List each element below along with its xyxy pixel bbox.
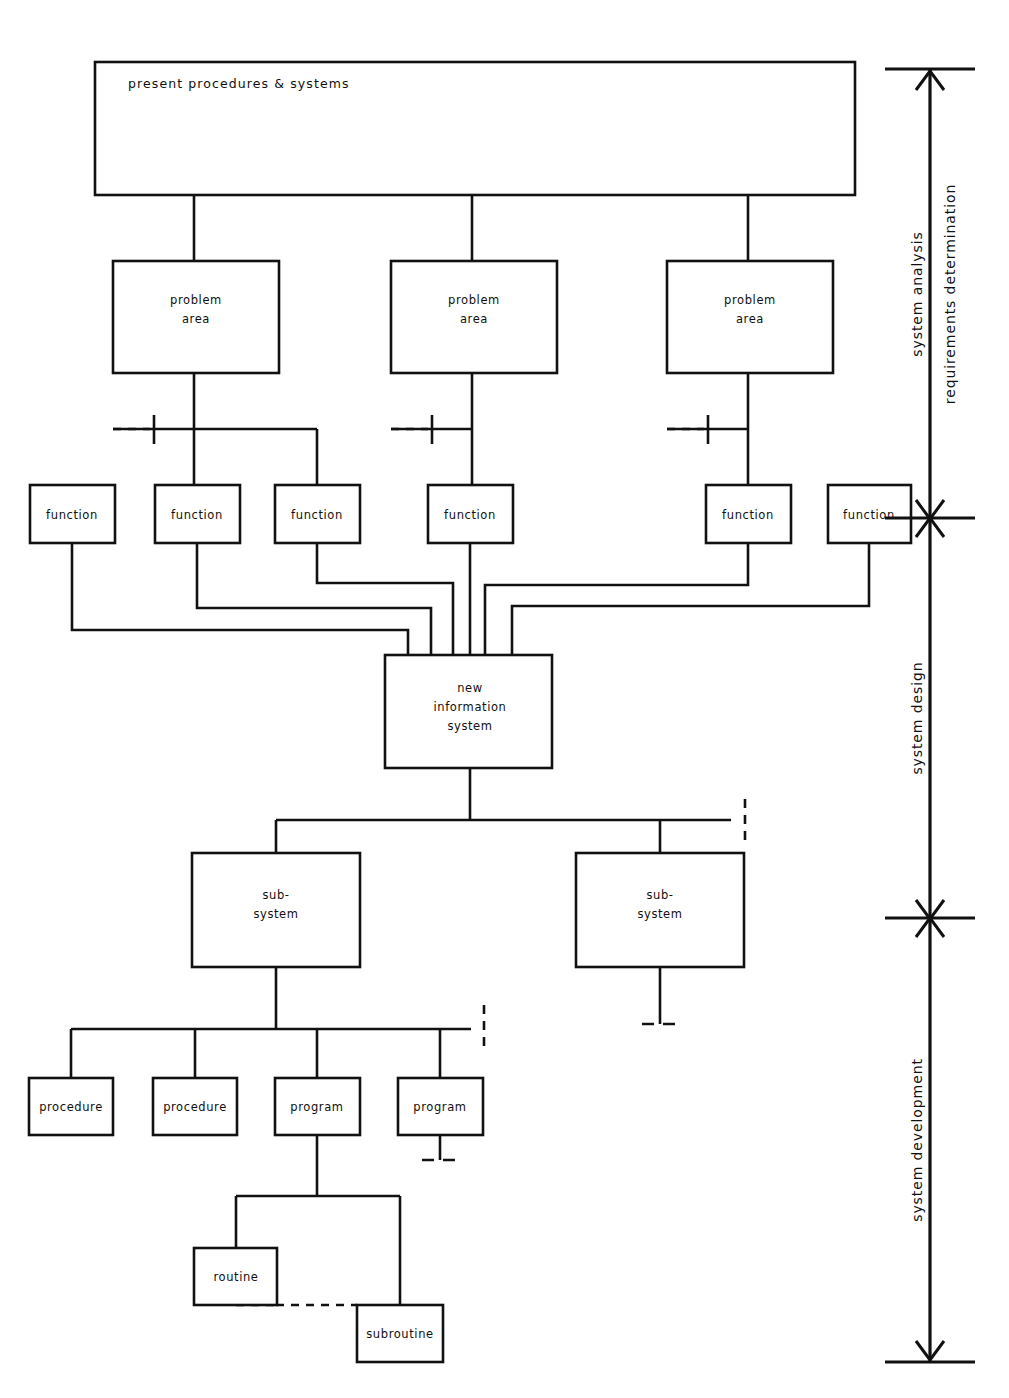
- label-sub-system-1-line1: sub-: [262, 888, 289, 902]
- phase-label-system-design: system design: [909, 661, 925, 774]
- label-problem-area-3-line2: area: [736, 312, 764, 326]
- label-function-3: function: [291, 508, 343, 522]
- phase-label-requirements-determination: requirements determination: [942, 184, 958, 404]
- label-problem-area-2-line2: area: [460, 312, 488, 326]
- label-routine-1: routine: [213, 1270, 258, 1284]
- label-program-1: program: [290, 1100, 343, 1114]
- connector-function-3-to-nis: [317, 543, 453, 655]
- connector-function-5-to-nis: [485, 543, 748, 655]
- label-sub-system-2-line2: system: [637, 907, 682, 921]
- label-new-information-system-line3: system: [447, 719, 492, 733]
- label-function-2: function: [171, 508, 223, 522]
- system-lifecycle-diagram: present procedures & systems problem are…: [0, 0, 1009, 1398]
- label-problem-area-1-line2: area: [182, 312, 210, 326]
- label-subroutine-1: subroutine: [366, 1327, 433, 1341]
- label-function-6: function: [843, 508, 895, 522]
- label-sub-system-1-line2: system: [253, 907, 298, 921]
- label-function-5: function: [722, 508, 774, 522]
- phase-label-layer: system analysis requirements determinati…: [909, 184, 958, 1222]
- diagram-canvas: present procedures & systems problem are…: [0, 0, 1009, 1398]
- phase-axis-layer: [885, 69, 975, 1362]
- label-problem-area-3-line1: problem: [724, 293, 776, 307]
- dashed-stub-terminators: [236, 1024, 678, 1305]
- connector-function-2-to-nis: [197, 543, 431, 655]
- label-new-information-system-line1: new: [457, 681, 483, 695]
- label-function-4: function: [444, 508, 496, 522]
- label-procedure-1: procedure: [39, 1100, 103, 1114]
- label-sub-system-2-line1: sub-: [646, 888, 673, 902]
- label-problem-area-1-line1: problem: [170, 293, 222, 307]
- label-problem-area-2-line1: problem: [448, 293, 500, 307]
- label-program-2: program: [413, 1100, 466, 1114]
- phase-label-system-analysis: system analysis: [909, 231, 925, 356]
- connector-function-1-to-nis: [72, 543, 408, 655]
- label-new-information-system-line2: information: [434, 700, 507, 714]
- connector-function-6-to-nis: [512, 543, 869, 655]
- label-present-procedures-and-systems: present procedures & systems: [128, 76, 350, 91]
- label-function-1: function: [46, 508, 98, 522]
- phase-label-system-development: system development: [909, 1058, 925, 1222]
- label-procedure-2: procedure: [163, 1100, 227, 1114]
